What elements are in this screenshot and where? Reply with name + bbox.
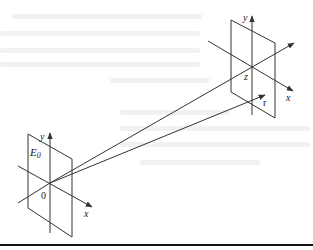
ray-to-r	[50, 95, 265, 183]
target-x-label: x	[285, 92, 291, 103]
target-x-axis	[208, 41, 293, 91]
source-plane-label: E0	[29, 146, 41, 160]
source-y-label: y	[39, 131, 45, 142]
source-x-label: x	[83, 208, 89, 219]
source-origin-label: 0	[41, 190, 46, 201]
target-y-label: y	[242, 12, 248, 23]
ray-to-origin	[50, 43, 294, 183]
projection-diagram: y E0 0 x y z x r	[0, 0, 313, 250]
section-divider	[0, 244, 313, 246]
target-plane-outline	[231, 20, 275, 118]
target-origin-label: z	[243, 71, 248, 82]
vector-r-label: r	[263, 97, 267, 108]
rays	[50, 43, 294, 183]
target-plane	[208, 16, 293, 118]
source-x-axis	[18, 166, 92, 207]
